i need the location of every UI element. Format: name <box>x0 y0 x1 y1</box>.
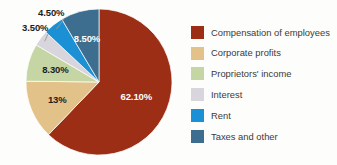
chart-legend: Compensation of employeesCorporate profi… <box>191 22 337 147</box>
legend-item[interactable]: Taxes and other <box>191 126 337 147</box>
pie-slice-value-label: 8.30% <box>42 64 69 75</box>
legend-item-label: Proprietors' income <box>211 69 291 78</box>
pie-slice-value-label: 8.50% <box>74 33 101 44</box>
pie-chart-figure: 62.10%13%8.30%3.50%4.50%8.50% Compensati… <box>0 0 337 165</box>
legend-color-swatch <box>191 67 204 80</box>
legend-item[interactable]: Compensation of employees <box>191 22 337 43</box>
legend-color-swatch <box>191 109 204 122</box>
legend-item[interactable]: Rent <box>191 105 337 126</box>
pie-slice-value-label: 13% <box>48 94 67 105</box>
legend-color-swatch <box>191 88 204 101</box>
legend-item-label: Corporate profits <box>211 48 281 57</box>
pie-plot-area: 62.10%13%8.30%3.50%4.50%8.50% <box>0 0 190 165</box>
legend-color-swatch <box>191 26 204 39</box>
pie-slice-value-label: 62.10% <box>120 91 152 102</box>
legend-item-label: Compensation of employees <box>211 28 330 37</box>
pie-slice-value-label: 4.50% <box>38 7 65 18</box>
legend-item-label: Rent <box>211 111 231 120</box>
legend-color-swatch <box>191 47 204 60</box>
legend-item[interactable]: Proprietors' income <box>191 64 337 85</box>
pie-slice-value-label: 3.50% <box>22 22 49 33</box>
legend-item[interactable]: Corporate profits <box>191 43 337 64</box>
pie-svg: 62.10%13%8.30%3.50%4.50%8.50% <box>0 0 190 165</box>
legend-item-label: Taxes and other <box>211 132 278 141</box>
legend-item-label: Interest <box>211 90 242 99</box>
legend-color-swatch <box>191 130 204 143</box>
legend-item[interactable]: Interest <box>191 84 337 105</box>
